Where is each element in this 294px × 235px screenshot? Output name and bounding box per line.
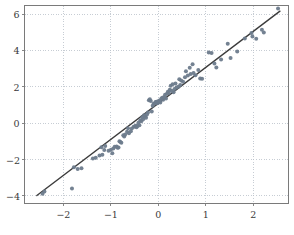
scatter-plot-figure: −2−1012 −4−20246 — [0, 0, 294, 235]
x-tick-label: −1 — [104, 209, 118, 220]
y-tick-label: −4 — [6, 190, 20, 201]
y-tick-label: 4 — [6, 45, 20, 56]
y-tick-label: 0 — [6, 118, 20, 129]
y-tick-label: −2 — [6, 154, 20, 165]
plot-canvas — [0, 0, 294, 235]
axis-ticks — [22, 14, 253, 206]
y-tick-label: 6 — [6, 9, 20, 20]
x-tick-label: 2 — [250, 209, 256, 220]
x-tick-label: 1 — [203, 209, 209, 220]
x-tick-label: 0 — [155, 209, 161, 220]
y-tick-label: 2 — [6, 81, 20, 92]
x-tick-label: −2 — [56, 209, 70, 220]
scatter-points — [41, 7, 281, 196]
